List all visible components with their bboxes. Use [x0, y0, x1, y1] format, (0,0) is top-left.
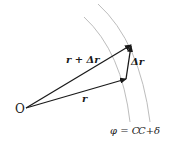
- delta-r-label: Δr: [131, 57, 144, 67]
- vector-r: [26, 79, 126, 108]
- phi-equals-c-label: φ = C: [110, 126, 139, 136]
- r-label: r: [82, 94, 87, 104]
- r-plus-delta-r-label: r + Δr: [66, 55, 100, 65]
- diagram-canvas: O r + Δr Δr r φ = C C+δ: [0, 0, 176, 148]
- c-plus-delta-label: C+δ: [138, 126, 160, 136]
- origin-label: O: [15, 103, 25, 115]
